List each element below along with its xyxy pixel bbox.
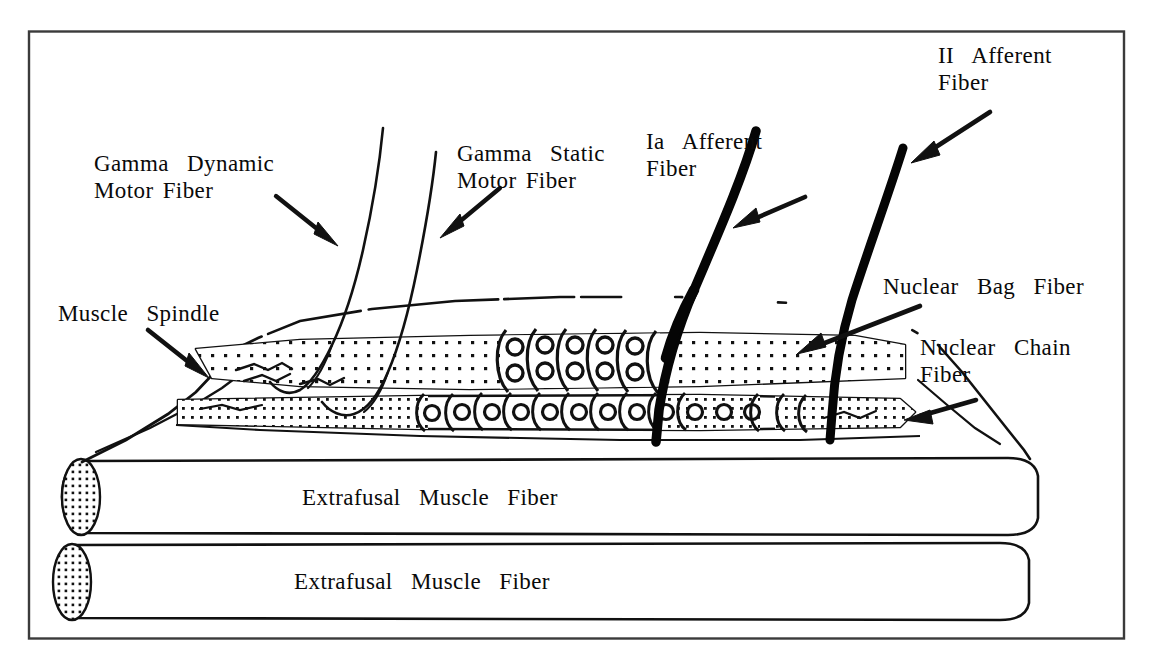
nuclear-chain-fiber: [178, 392, 920, 434]
label-ia-afferent-fiber: Ia Afferent Fiber: [646, 128, 762, 182]
label-ii-afferent-fiber: II Afferent Fiber: [938, 42, 1052, 96]
figure-canvas: Gamma Dynamic Motor Fiber Gamma Static M…: [0, 0, 1151, 663]
label-gamma-dynamic-motor-fiber: Gamma Dynamic Motor Fiber: [94, 150, 274, 204]
muscle-spindle-diagram: [0, 0, 1151, 663]
label-gamma-static-motor-fiber: Gamma Static Motor Fiber: [457, 140, 605, 194]
label-nuclear-chain-fiber: Nuclear Chain Fiber: [920, 334, 1071, 388]
arrow-gamma-static: [440, 188, 500, 238]
arrow-ii-afferent: [911, 112, 990, 163]
label-muscle-spindle: Muscle Spindle: [58, 300, 220, 327]
arrow-gamma-dynamic: [276, 196, 338, 246]
label-extrafusal-muscle-fiber-upper: Extrafusal Muscle Fiber: [240, 484, 620, 511]
label-nuclear-bag-fiber: Nuclear Bag Fiber: [883, 273, 1084, 300]
label-extrafusal-muscle-fiber-lower: Extrafusal Muscle Fiber: [232, 568, 612, 595]
arrow-ia-afferent: [733, 197, 805, 228]
